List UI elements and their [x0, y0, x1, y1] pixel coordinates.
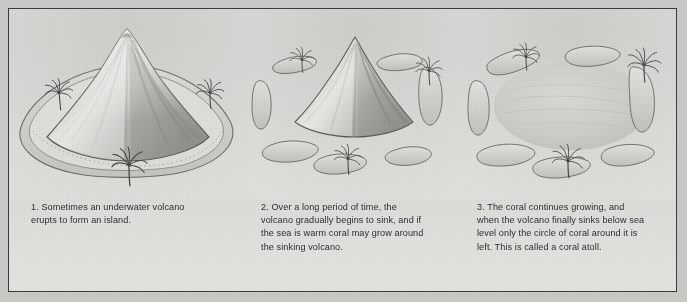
panel-sinking-volcano: 2. Over a long period of time, the volca… — [249, 9, 464, 292]
caption-panel-1: 1. Sometimes an underwater volcano erupt… — [9, 201, 249, 227]
illustration-sinking-volcano — [249, 9, 464, 199]
illustration-volcano-island — [9, 9, 249, 199]
lagoon — [494, 62, 648, 150]
illustration-coral-atoll — [464, 9, 677, 199]
panel-coral-atoll: 3. The coral continues growing, and when… — [464, 9, 677, 292]
caption-panel-3: 3. The coral continues growing, and when… — [464, 201, 677, 254]
caption-panel-2: 2. Over a long period of time, the volca… — [249, 201, 464, 254]
panel-volcano-island: 1. Sometimes an underwater volcano erupt… — [9, 9, 249, 292]
figure-frame: 1. Sometimes an underwater volcano erupt… — [8, 8, 677, 292]
coral-atoll-figure: 1. Sometimes an underwater volcano erupt… — [0, 0, 687, 302]
